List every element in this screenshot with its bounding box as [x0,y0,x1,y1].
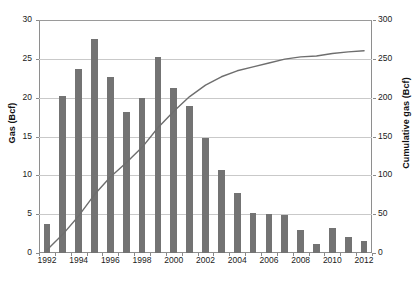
y-axis-left-tick-label: 15 [10,131,32,141]
y-axis-right-tick-mark [373,253,376,254]
x-axis-tick-label: 2004 [220,255,254,265]
x-axis-labels: 1992199419961998200020022004200620082010… [39,255,372,269]
plot-area [39,20,372,253]
y-axis-left-tick-label: 20 [10,92,32,102]
y-axis-left-tick-label: 25 [10,53,32,63]
y-axis-right-tick-label: 150 [378,131,402,141]
y-axis-right-tick-mark [373,137,376,138]
y-axis-right-tick-mark [373,98,376,99]
y-axis-right-tick-label: 100 [378,169,402,179]
x-axis-tick-label: 2002 [189,255,223,265]
y-axis-right-tick-mark [373,175,376,176]
x-axis-tick-label: 2010 [315,255,349,265]
x-axis-tick-label: 1992 [30,255,64,265]
x-axis-tick-label: 2006 [252,255,286,265]
gas-production-chart: Gas (Bcf) Cumulative gas (Bcf) 051015202… [0,0,417,282]
y-axis-right-tick-mark [373,59,376,60]
x-axis-tick-label: 1994 [62,255,96,265]
y-axis-right-title: Cumulative gas (Bcf) [401,68,411,178]
cumulative-line-path [47,51,364,250]
y-axis-right-tick-label: 300 [378,14,402,24]
figure-caption-clipped [0,274,417,282]
x-axis-tick-label: 2008 [284,255,318,265]
y-axis-left-tick-label: 10 [10,169,32,179]
x-axis-tick-label: 2000 [157,255,191,265]
y-axis-right-tick-label: 0 [378,247,402,257]
y-axis-right-tick-label: 250 [378,53,402,63]
y-axis-left-tick-label: 5 [10,208,32,218]
y-axis-right-tick-mark [373,214,376,215]
cumulative-line-series [39,20,372,253]
y-axis-right-tick-label: 50 [378,208,402,218]
x-axis-tick-label: 1998 [125,255,159,265]
y-axis-left-tick-label: 0 [10,247,32,257]
x-axis-tick-label: 1996 [93,255,127,265]
x-axis-tick-label: 2012 [347,255,381,265]
y-axis-right-tick-mark [373,20,376,21]
y-axis-right-tick-label: 200 [378,92,402,102]
y-axis-left-tick-label: 30 [10,14,32,24]
